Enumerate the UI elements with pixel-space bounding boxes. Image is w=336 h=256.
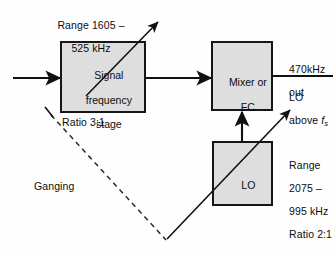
signal-frequency-subscript: s: [324, 118, 328, 127]
lo-range-line1: Range: [289, 159, 320, 171]
signal-range-line1: Range 1605 –: [57, 19, 124, 31]
lo-range-line3: 995 kHz: [289, 205, 328, 217]
lo-relation-prefix: above: [289, 114, 321, 126]
lo-label-text: LO: [241, 179, 255, 191]
signal-stage-label-line2: frequency: [86, 94, 132, 106]
signal-ratio-annotation: Ratio 3:1: [62, 117, 105, 129]
mixer-fc-label: Mixer or FC: [212, 64, 272, 125]
signal-frequency-stage-label: Signal frequency stage: [61, 57, 145, 142]
lo-range-line2: 2075 –: [289, 182, 322, 194]
mixer-label-line1: Mixer or: [229, 76, 267, 88]
ganging-corner-tick: [45, 107, 53, 117]
if-output-line1: 470kHz: [289, 63, 325, 75]
lo-relation-line1: LO: [289, 91, 303, 103]
signal-stage-label-line1: Signal: [94, 69, 123, 81]
block-diagram-canvas: Signal frequency stage Mixer or FC LO Ra…: [0, 0, 336, 256]
lo-relation-annotation: LO above fs: [277, 80, 328, 141]
mixer-label-line2: FC: [241, 101, 255, 113]
lo-range-annotation: Range 2075 – 995 kHz Ratio 2:1: [277, 148, 332, 252]
lo-ratio-text: Ratio 2:1: [289, 228, 332, 240]
signal-range-annotation: Range 1605 – 525 kHz: [27, 8, 143, 66]
ganging-annotation: Ganging: [34, 181, 74, 193]
signal-range-line2: 525 kHz: [71, 42, 110, 54]
lo-block-label: LO: [213, 167, 272, 204]
